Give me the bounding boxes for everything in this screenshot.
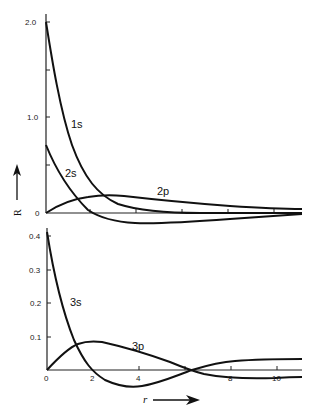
top-y-tick-1: 1.0 [27, 113, 39, 122]
top-y-tick-0: 0 [35, 209, 40, 218]
label-2p: 2p [157, 185, 169, 197]
x-axis-arrow-icon [153, 395, 200, 405]
bottom-x-tick-2: 2 [90, 374, 95, 383]
top-plot: 2.0 1.0 0 R 1s 2s 2p [12, 14, 302, 223]
curve-1s [46, 22, 302, 213]
label-3p: 3p [132, 340, 144, 352]
bottom-x-tick-0: 0 [44, 374, 49, 383]
label-1s: 1s [71, 118, 83, 130]
top-y-tick-2: 2.0 [25, 18, 37, 27]
bottom-plot: 0.4 0.3 0.2 0.1 0 2 4 8 10 3s 3p r [29, 228, 302, 405]
bottom-y-tick-01: 0.1 [30, 333, 42, 342]
label-3s: 3s [70, 296, 82, 308]
bottom-y-tick-04: 0.4 [29, 232, 41, 241]
label-2s: 2s [65, 167, 77, 179]
curve-2p [46, 195, 302, 213]
y-axis-label-R: R [12, 209, 23, 216]
radial-wavefunction-figure: 2.0 1.0 0 R 1s 2s 2p [0, 0, 320, 416]
bottom-y-tick-02: 0.2 [30, 299, 42, 308]
y-axis-arrow-icon [13, 164, 21, 200]
x-axis-label-r: r [143, 393, 148, 405]
bottom-x-tick-4: 4 [136, 374, 141, 383]
bottom-y-tick-03: 0.3 [29, 266, 41, 275]
